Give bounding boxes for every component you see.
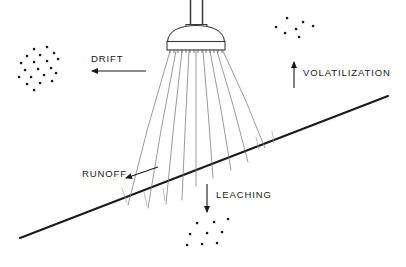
particle-dot [186, 244, 188, 246]
drift-label: DRIFT [91, 53, 123, 64]
particle-dot [57, 58, 59, 60]
particle-dot [286, 17, 288, 19]
spray-stream-group [128, 51, 265, 208]
particle-dot [298, 36, 300, 38]
particle-dot [26, 83, 28, 85]
diagram-canvas: DRIFT VOLATILIZATION RUNOFF LEACHING [0, 0, 406, 267]
particle-dot [37, 68, 39, 70]
particle-dot [39, 54, 41, 56]
particle-dot [33, 61, 35, 63]
spray-stream [203, 51, 213, 178]
particle-dot [312, 25, 314, 27]
particle-dot [20, 62, 22, 64]
sprayer-manifold-icon [167, 42, 225, 51]
ground-group [20, 96, 388, 238]
particle-dot [275, 26, 277, 28]
leaching-label: LEACHING [216, 189, 272, 200]
spray-stream [182, 51, 189, 200]
boom-sprayer-head [167, 0, 225, 53]
spray-stream [210, 51, 231, 170]
particle-dot [46, 60, 48, 62]
drift-particle-cloud [18, 46, 59, 91]
spray-tip [163, 188, 165, 201]
particle-dot [53, 52, 55, 54]
particle-dot [50, 67, 52, 69]
sprayer-dome-icon [168, 26, 225, 42]
spray-tip [256, 137, 259, 150]
particle-dot [206, 232, 208, 234]
spray-stream [223, 51, 265, 148]
particle-dot [24, 69, 26, 71]
particle-dot [284, 32, 286, 34]
particle-dot [55, 72, 57, 74]
spray-tip [144, 192, 147, 206]
particle-dot [196, 222, 198, 224]
soil-surface-line [20, 96, 388, 238]
particle-dot [39, 82, 41, 84]
particle-dot [227, 218, 229, 220]
spray-stream [166, 51, 182, 204]
particle-dot [213, 221, 215, 223]
particle-dot [51, 80, 53, 82]
particle-dot [33, 48, 35, 50]
particle-dot [26, 55, 28, 57]
spray-tip [122, 188, 127, 203]
particle-dot [18, 76, 20, 78]
pesticide-pathways-diagram: Pesticide Spray Application Pathways [0, 0, 406, 267]
particle-dot [221, 231, 223, 233]
particle-dot [295, 28, 297, 30]
leaching-particle-cloud [186, 218, 229, 246]
particle-dot [43, 74, 45, 76]
particle-dot [30, 76, 32, 78]
particle-dot [216, 242, 218, 244]
particle-dot [189, 233, 191, 235]
particle-dot [33, 89, 35, 91]
particle-dot [201, 243, 203, 245]
spray-stream [217, 51, 248, 162]
volatilization-particle-cloud [275, 17, 314, 38]
particle-dot [46, 46, 48, 48]
spray-stream [148, 51, 176, 208]
particle-dot [302, 21, 304, 23]
runoff-label: RUNOFF [82, 168, 127, 179]
particle-clusters-group [18, 17, 314, 246]
volatilization-label: VOLATILIZATION [303, 67, 391, 78]
